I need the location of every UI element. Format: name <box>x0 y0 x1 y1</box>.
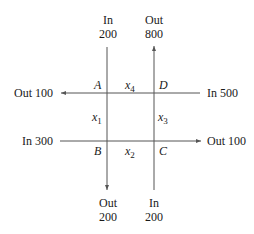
node-b-label: B <box>94 144 101 158</box>
flow-network-lines <box>0 0 254 234</box>
top-right-direction: Out <box>145 13 163 27</box>
node-d-label: D <box>159 78 168 92</box>
node-c-label: C <box>159 144 167 158</box>
left-top-flow-label: Out 100 <box>14 86 53 100</box>
flow-x3-label: x3 <box>158 110 168 128</box>
bottom-left-value: 200 <box>99 210 117 224</box>
x1-subscript: 1 <box>97 116 102 126</box>
top-left-direction: In <box>99 13 117 27</box>
bottom-right-direction: In <box>145 196 163 210</box>
top-left-value: 200 <box>99 27 117 41</box>
flow-x4-label: x4 <box>125 78 135 96</box>
top-left-flow-label: In 200 <box>99 13 117 41</box>
top-right-value: 800 <box>145 27 163 41</box>
flow-x1-label: x1 <box>92 110 102 128</box>
right-bottom-flow-label: Out 100 <box>207 134 246 148</box>
left-bottom-flow-label: In 300 <box>22 134 53 148</box>
top-right-flow-label: Out 800 <box>145 13 163 41</box>
right-top-flow-label: In 500 <box>207 86 238 100</box>
flow-x2-label: x2 <box>125 144 135 162</box>
bottom-right-flow-label: In 200 <box>145 196 163 224</box>
x3-subscript: 3 <box>163 116 168 126</box>
x4-subscript: 4 <box>130 84 135 94</box>
x2-subscript: 2 <box>130 150 135 160</box>
bottom-left-direction: Out <box>99 196 117 210</box>
node-a-label: A <box>94 78 101 92</box>
bottom-left-flow-label: Out 200 <box>99 196 117 224</box>
bottom-right-value: 200 <box>145 210 163 224</box>
